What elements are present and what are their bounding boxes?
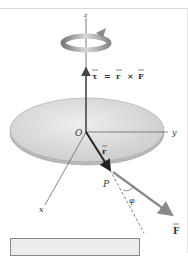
force-vector-label: F xyxy=(173,224,180,236)
caption-box xyxy=(10,238,140,256)
disk xyxy=(10,98,164,165)
r-extension-line xyxy=(110,170,144,233)
z-axis-label: z xyxy=(83,11,88,18)
svg-text:F: F xyxy=(138,71,144,81)
angle-label: φ xyxy=(129,196,135,205)
y-axis-label: y xyxy=(171,128,177,137)
svg-text:=: = xyxy=(104,71,111,81)
point-label: P xyxy=(102,179,110,189)
force-vector xyxy=(113,172,172,215)
svg-text:τ: τ xyxy=(92,71,97,81)
svg-text:F: F xyxy=(173,226,180,236)
torque-equation: τ = r × F xyxy=(92,70,144,81)
x-axis-label: x xyxy=(39,205,44,214)
origin-label: O xyxy=(75,128,83,138)
svg-text:r: r xyxy=(116,71,121,81)
svg-text:×: × xyxy=(127,71,134,81)
